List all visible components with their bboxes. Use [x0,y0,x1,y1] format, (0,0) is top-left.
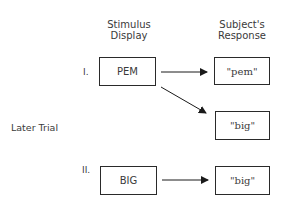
arrows-layer [0,0,288,205]
arrow-pem-to-big [161,87,206,113]
